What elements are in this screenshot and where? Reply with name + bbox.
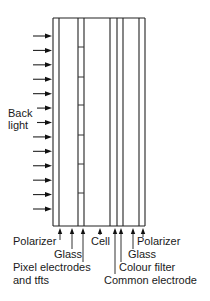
pointer-arrow-icon (81, 228, 85, 234)
label-polarizer-back: Polarizer (13, 235, 57, 247)
pointer-arrow-icon (58, 228, 62, 234)
pointer-arrow-icon (113, 228, 117, 234)
backlight-arrow-icon (45, 48, 52, 53)
lcd-structure-diagram: Back light Polarizer Glass Pixel electro… (0, 0, 210, 301)
backlight-arrow-icon (45, 192, 52, 197)
layer-stack (53, 18, 145, 226)
pixel-electrode-ticks (78, 47, 84, 193)
backlight-arrow-icon (45, 91, 52, 96)
backlight-label-line1: Back (8, 107, 33, 119)
pointer-arrow-icon (119, 228, 123, 234)
pointer-arrow-icon (131, 228, 135, 234)
backlight-arrows (33, 34, 52, 212)
backlight-arrow-icon (45, 163, 52, 168)
backlight-arrow-icon (45, 62, 52, 67)
backlight-arrow-icon (45, 77, 52, 82)
backlight-arrow-icon (45, 34, 52, 39)
backlight-arrow-icon (45, 149, 52, 154)
backlight-arrow-icon (45, 106, 52, 111)
backlight-arrow-icon (45, 120, 52, 125)
backlight-label-line2: light (8, 119, 28, 131)
label-pixel-electrodes: Pixel electrodes (13, 261, 91, 273)
label-and-tfts: and tfts (13, 274, 50, 286)
label-cell: Cell (91, 235, 110, 247)
pointer-arrow-icon (141, 228, 145, 234)
pointer-arrow-icon (98, 228, 102, 234)
backlight-arrow-icon (45, 134, 52, 139)
backlight-arrow-icon (45, 207, 52, 212)
label-glass-front: Glass (128, 248, 157, 260)
label-colour-filter: Colour filter (119, 261, 176, 273)
label-polarizer-front: Polarizer (137, 235, 181, 247)
label-glass-back: Glass (54, 248, 83, 260)
pointer-arrow-icon (70, 228, 74, 234)
backlight-arrow-icon (45, 178, 52, 183)
label-common-electrode: Common electrode (104, 274, 197, 286)
layer-labels: Back light Polarizer Glass Pixel electro… (8, 107, 197, 286)
